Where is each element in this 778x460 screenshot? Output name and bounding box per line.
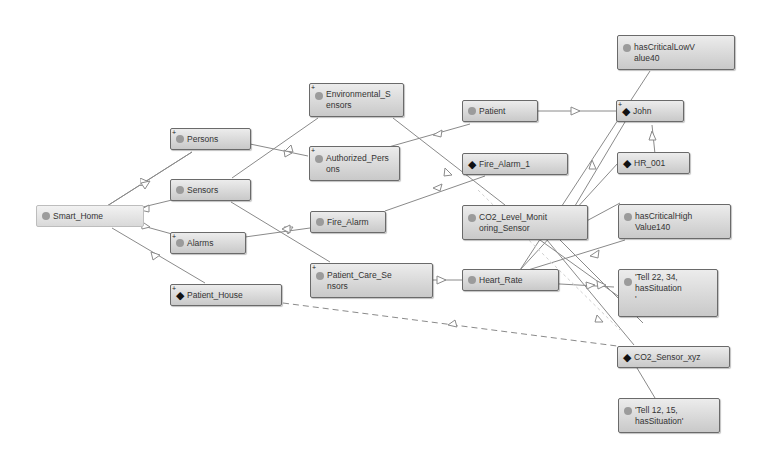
node-label: Authorized_Pers ons [326, 153, 389, 175]
class-icon [176, 239, 184, 247]
node-heart-rate[interactable]: Heart_Rate [462, 269, 559, 291]
node-sensors[interactable]: Sensors [170, 179, 251, 201]
node-label: John [633, 106, 651, 117]
node-label: Sensors [187, 185, 218, 196]
node-label: Patient [479, 106, 505, 117]
individual-diamond-icon: ◆ [623, 351, 631, 363]
expand-icon[interactable]: + [172, 129, 176, 136]
node-label: CO2_Sensor_xyz [634, 352, 701, 363]
node-label: Patient_Care_Se nsors [327, 270, 392, 292]
node-has-critical-high-value140[interactable]: hasCriticalHigh Value140 [618, 204, 731, 239]
node-patient[interactable]: Patient [462, 100, 538, 122]
class-icon [42, 212, 50, 220]
class-icon [315, 155, 323, 163]
individual-diamond-icon: ◆ [622, 105, 630, 117]
edge-co2_sensor_xyz-tell12[interactable] [634, 363, 655, 398]
class-icon [623, 44, 631, 52]
class-icon [624, 213, 632, 221]
class-icon [176, 186, 184, 194]
class-icon [468, 107, 476, 115]
node-label: Smart_Home [53, 211, 103, 222]
edge-alarms-fire_alarm[interactable] [245, 228, 310, 237]
node-tell-12-15[interactable]: 'Tell 12, 15, hasSituation' [618, 398, 720, 433]
node-label: Persons [187, 134, 218, 145]
node-persons[interactable]: + Persons [170, 128, 251, 150]
node-label: CO2_Level_Monit oring_Sensor [479, 212, 547, 234]
node-label: hasCriticalHigh Value140 [635, 211, 692, 233]
individual-diamond-icon: ◆ [468, 158, 476, 170]
class-icon [315, 92, 323, 100]
node-has-critical-low-value40[interactable]: hasCriticalLowV alue40 [617, 35, 735, 70]
node-smart-home[interactable]: Smart_Home [36, 205, 144, 227]
node-authorized-persons[interactable]: + Authorized_Pers ons [309, 146, 400, 181]
class-icon [316, 218, 324, 226]
node-tell-22-34[interactable]: 'Tell 22, 34, hasSituation ' [618, 269, 718, 317]
node-label: Patient_House [187, 290, 243, 301]
node-alarms[interactable]: + Alarms [170, 232, 246, 254]
class-icon [176, 135, 184, 143]
expand-icon[interactable]: + [312, 264, 316, 271]
class-icon [624, 278, 632, 286]
expand-icon[interactable]: + [311, 84, 315, 91]
node-label: Alarms [187, 238, 213, 249]
expand-icon[interactable]: + [172, 233, 176, 240]
class-icon [316, 272, 324, 280]
node-label: HR_001 [634, 158, 665, 169]
node-patient-house[interactable]: + ◆ Patient_House [170, 284, 282, 306]
node-patient-care-sensors[interactable]: + Patient_Care_Se nsors [310, 263, 433, 298]
individual-diamond-icon: ◆ [176, 289, 184, 301]
node-label: Fire_Alarm [327, 217, 369, 228]
expand-icon[interactable]: + [311, 147, 315, 154]
node-label: 'Tell 22, 34, hasSituation ' [635, 272, 682, 305]
class-icon [468, 214, 476, 222]
node-co2-level-monitoring-sensor[interactable]: CO2_Level_Monit oring_Sensor [462, 205, 588, 240]
node-label: hasCriticalLowV alue40 [634, 42, 695, 64]
node-label: Environmental_S ensors [326, 89, 391, 111]
class-icon [468, 276, 476, 284]
node-fire-alarm-1[interactable]: ◆ Fire_Alarm_1 [462, 153, 568, 175]
individual-diamond-icon: ◆ [623, 157, 631, 169]
ontology-graph-canvas: Smart_Home + Persons Sensors + Alarms + … [0, 0, 778, 460]
node-label: 'Tell 12, 15, hasSituation' [635, 405, 683, 427]
node-john[interactable]: + ◆ John [616, 100, 684, 122]
class-icon [624, 407, 632, 415]
node-environmental-sensors[interactable]: + Environmental_S ensors [309, 83, 404, 117]
node-fire-alarm[interactable]: Fire_Alarm [310, 211, 386, 233]
node-hr-001[interactable]: ◆ HR_001 [617, 152, 690, 174]
node-label: Fire_Alarm_1 [479, 159, 530, 170]
node-label: Heart_Rate [479, 275, 522, 286]
node-co2-sensor-xyz[interactable]: ◆ CO2_Sensor_xyz [617, 346, 730, 368]
edge-heart_rate-has_critical_high[interactable] [528, 240, 625, 270]
